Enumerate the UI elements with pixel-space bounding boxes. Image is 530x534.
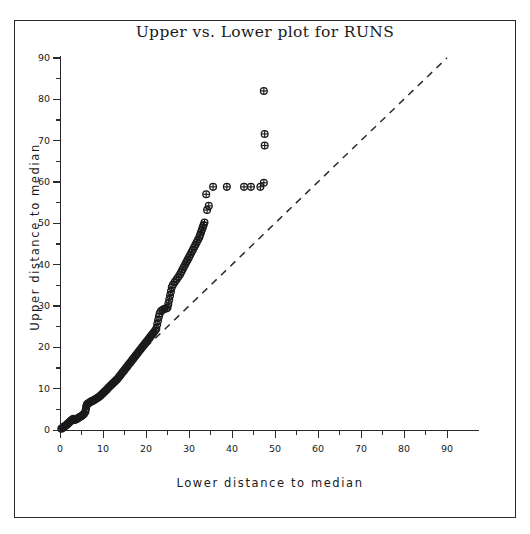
y-tick-20 [53,347,60,348]
x-tick-20 [146,431,147,438]
data-point [210,183,217,190]
y-tick-minor [56,202,60,203]
x-tick-minor [167,431,168,435]
data-point [261,142,268,149]
y-tick-minor [56,78,60,79]
x-tick-minor [382,431,383,435]
x-tick-label-10: 10 [86,443,120,454]
scatter-points [58,88,268,433]
data-point [223,183,230,190]
data-point [248,183,255,190]
y-tick-label-0: 0 [16,424,50,435]
y-tick-label-70: 70 [16,135,50,146]
x-tick-80 [404,431,405,438]
x-tick-label-80: 80 [387,443,421,454]
x-tick-10 [103,431,104,438]
chart-root: Upper vs. Lower plot for RUNS Upper dist… [0,0,530,534]
y-tick-40 [53,264,60,265]
y-tick-label-50: 50 [16,217,50,228]
x-tick-minor [210,431,211,435]
x-tick-minor [339,431,340,435]
x-axis-title: Lower distance to median [60,476,480,490]
x-tick-label-70: 70 [344,443,378,454]
y-tick-50 [53,223,60,224]
x-tick-label-40: 40 [215,443,249,454]
x-tick-label-90: 90 [430,443,464,454]
y-tick-label-20: 20 [16,341,50,352]
data-point [205,202,212,209]
data-point [241,183,248,190]
data-point [260,179,267,186]
y-tick-label-30: 30 [16,300,50,311]
x-tick-minor [81,431,82,435]
y-tick-90 [53,57,60,58]
x-tick-minor [425,431,426,435]
x-tick-0 [60,431,61,438]
y-tick-minor [56,243,60,244]
y-tick-label-60: 60 [16,176,50,187]
y-tick-label-10: 10 [16,383,50,394]
y-tick-80 [53,99,60,100]
x-tick-70 [361,431,362,438]
reference-line [146,58,447,347]
y-tick-minor [56,161,60,162]
data-point [260,88,267,95]
x-tick-label-0: 0 [43,443,77,454]
x-tick-label-20: 20 [129,443,163,454]
identity-reference-line [146,58,447,347]
y-tick-10 [53,388,60,389]
y-tick-minor [56,285,60,286]
y-tick-label-90: 90 [16,52,50,63]
y-tick-30 [53,305,60,306]
data-point [203,191,210,198]
y-tick-60 [53,181,60,182]
y-tick-minor [56,326,60,327]
y-tick-70 [53,140,60,141]
x-tick-label-50: 50 [258,443,292,454]
x-tick-30 [189,431,190,438]
x-tick-60 [318,431,319,438]
data-point [201,219,208,226]
x-tick-minor [253,431,254,435]
y-tick-minor [56,367,60,368]
x-tick-label-30: 30 [172,443,206,454]
y-tick-minor [56,409,60,410]
data-point [261,131,268,138]
x-tick-minor [124,431,125,435]
y-axis-title: Upper distance to median [28,107,42,367]
y-tick-minor [56,119,60,120]
x-tick-90 [447,431,448,438]
y-tick-label-40: 40 [16,259,50,270]
y-tick-label-80: 80 [16,93,50,104]
x-tick-minor [296,431,297,435]
x-tick-40 [232,431,233,438]
data-point [204,207,211,214]
x-tick-50 [275,431,276,438]
x-tick-label-60: 60 [301,443,335,454]
